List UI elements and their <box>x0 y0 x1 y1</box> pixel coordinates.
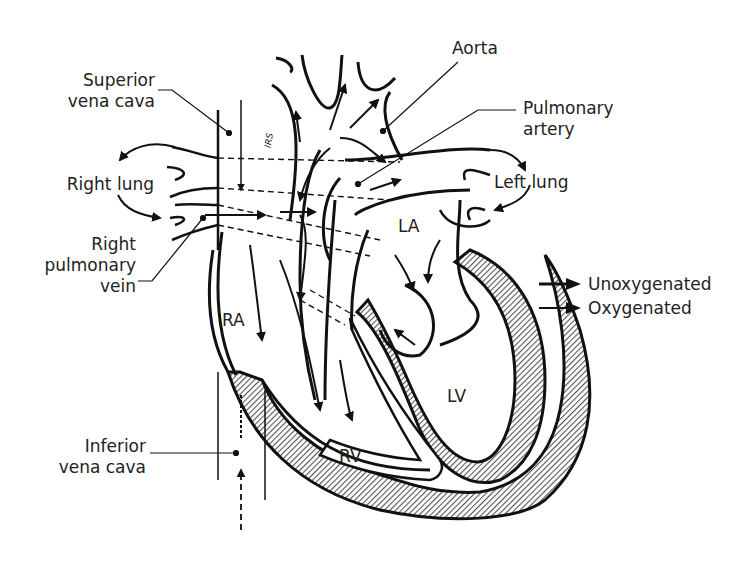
label-line: vena cava <box>40 91 155 112</box>
arrow-right-icon <box>538 302 582 314</box>
legend-label: Oxygenated <box>588 298 692 318</box>
legend-label: Unoxygenated <box>588 274 712 294</box>
label-right-lung: Right lung <box>30 174 154 195</box>
label-line: Inferior <box>40 436 146 457</box>
legend-item-unoxygenated: Unoxygenated <box>538 272 712 296</box>
label-line: Pulmonary <box>523 98 614 119</box>
label-inferior-vena-cava: Inferior vena cava <box>40 436 146 478</box>
label-pulmonary-artery: Pulmonary artery <box>523 98 614 140</box>
legend: Unoxygenated Oxygenated <box>538 272 712 320</box>
legend-item-oxygenated: Oxygenated <box>538 296 712 320</box>
label-left-ventricle: LV <box>447 386 466 407</box>
label-line: vena cava <box>40 457 146 478</box>
label-line: pulmonary <box>30 255 136 276</box>
label-left-lung: Left lung <box>494 172 568 193</box>
arrow-right-icon <box>538 278 582 290</box>
label-line: Superior <box>40 70 155 91</box>
myocardium-wall <box>228 250 590 519</box>
label-right-atrium: RA <box>222 310 245 331</box>
label-line: vein <box>30 276 136 297</box>
label-aorta: Aorta <box>452 38 498 59</box>
label-superior-vena-cava: Superior vena cava <box>40 70 155 112</box>
label-line: artery <box>523 119 614 140</box>
label-line: Right <box>30 234 136 255</box>
label-left-atrium: LA <box>398 216 420 237</box>
label-right-pulmonary-vein: Right pulmonary vein <box>30 234 136 297</box>
label-right-ventricle: RV <box>339 446 362 467</box>
